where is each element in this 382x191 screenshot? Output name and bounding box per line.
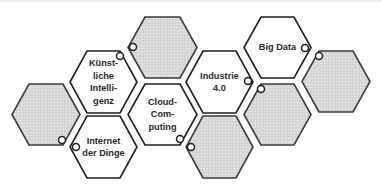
connector-ring xyxy=(258,86,265,93)
label-industrie-4-0: Industrie 4.0 xyxy=(186,51,253,113)
connector-ring xyxy=(130,44,137,51)
label-line: Cloud- xyxy=(148,96,177,109)
label-line: liche xyxy=(89,70,118,83)
hexagon-right-gray xyxy=(302,51,370,112)
label-line: puting xyxy=(148,121,177,134)
label-internet-der-dinge: Internet der Dinge xyxy=(70,116,137,178)
label-line: Intelli- xyxy=(89,82,118,95)
hexagon-mid-gray xyxy=(244,84,311,145)
connector-ring xyxy=(316,53,323,60)
label-line: Internet xyxy=(82,135,124,148)
connector-ring xyxy=(59,137,66,144)
label-line: Big Data xyxy=(259,41,296,54)
label-line: 4.0 xyxy=(200,82,239,95)
label-line: Com- xyxy=(148,108,177,121)
label-big-data: Big Data xyxy=(244,17,311,78)
label-kuenstliche-intelligenz: Künst- liche Intelli- genz xyxy=(70,51,137,113)
label-line: Künst- xyxy=(89,57,118,70)
label-line: genz xyxy=(89,95,118,108)
label-line: Industrie xyxy=(200,70,239,83)
label-line: der Dinge xyxy=(82,147,124,160)
